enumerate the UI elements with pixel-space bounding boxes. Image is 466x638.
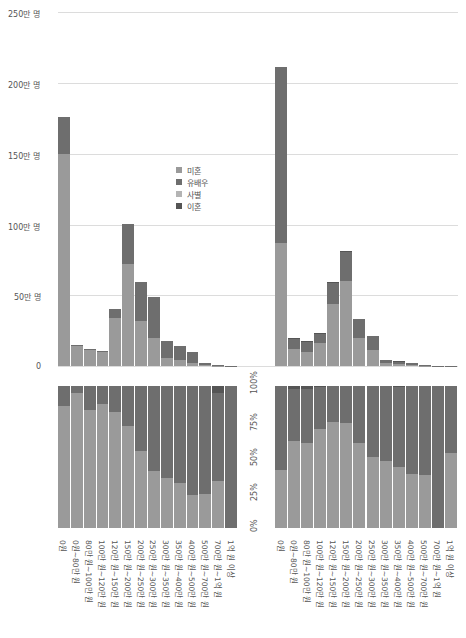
bar-segment	[340, 423, 352, 528]
bar-segment	[109, 386, 121, 412]
bar-segment	[199, 494, 211, 528]
bar	[58, 12, 70, 366]
legend-label: 유배우	[187, 177, 208, 188]
bar-segment	[406, 363, 418, 365]
x-tick-label: 500만 원~700만 원	[419, 540, 430, 608]
bar-segment	[122, 426, 134, 528]
bar-segment	[327, 282, 339, 303]
bar	[109, 12, 121, 366]
bar-segment	[301, 389, 313, 443]
bar-segment	[275, 67, 287, 243]
bar-segment	[419, 386, 431, 475]
bar-segment	[122, 224, 134, 264]
count-chart-right	[275, 12, 458, 366]
pct-tick-75: 75%	[250, 413, 259, 431]
bar	[71, 386, 83, 528]
bar-segment	[174, 360, 186, 366]
bar-segment	[109, 309, 121, 317]
bar	[225, 386, 237, 528]
bar	[135, 12, 147, 366]
x-tick-label: 300만 원~350만 원	[161, 540, 172, 608]
bar	[97, 386, 109, 528]
bar-segment	[199, 365, 211, 366]
x-tick-label: 150만 원~200만 원	[123, 540, 134, 608]
bar-segment	[161, 478, 173, 528]
x-tick-label: 0원	[276, 540, 287, 552]
bar	[135, 386, 147, 528]
pct-tick-0: 0%	[250, 519, 259, 532]
legend-item-widowed: 사별	[176, 188, 208, 200]
percent-chart-left	[58, 386, 238, 528]
bar	[301, 12, 313, 366]
legend: 미혼 유배우 사별 이혼	[176, 164, 208, 212]
bar-segment	[393, 387, 405, 467]
bar-segment	[432, 386, 444, 528]
bar-segment	[71, 346, 83, 366]
bar	[199, 386, 211, 528]
bar-segment	[225, 386, 237, 528]
legend-swatch-icon	[176, 179, 182, 185]
bar-segment	[97, 352, 109, 366]
bar-segment	[109, 412, 121, 528]
bar-segment	[161, 358, 173, 366]
bar-segment	[148, 386, 160, 471]
bar-segment	[419, 365, 431, 366]
bar	[122, 12, 134, 366]
bar-segment	[367, 350, 379, 366]
legend-item-divorced: 이혼	[176, 200, 208, 212]
bar-segment	[97, 386, 109, 404]
x-tick-label: 350만 원~400만 원	[393, 540, 404, 608]
bar	[406, 386, 418, 528]
bar-segment	[393, 467, 405, 528]
x-tick-label: 400만 원~500만 원	[406, 540, 417, 608]
y-tick-150: 150만 명	[8, 150, 40, 161]
bar	[314, 12, 326, 366]
x-tick-label: 700만 원~1억 원	[432, 540, 443, 598]
bar-segment	[393, 361, 405, 364]
bar-segment	[353, 338, 365, 366]
bar-segment	[380, 363, 392, 366]
bar-segment	[340, 251, 352, 281]
bar	[353, 12, 365, 366]
bar-segment	[327, 386, 339, 422]
x-tick-label: 200만 원~250만 원	[354, 540, 365, 608]
bar	[97, 12, 109, 366]
bar-segment	[301, 386, 313, 389]
bar	[301, 386, 313, 528]
bar	[84, 386, 96, 528]
bar-segment	[275, 243, 287, 366]
bar	[367, 386, 379, 528]
bar	[225, 12, 237, 366]
legend-swatch-icon	[176, 167, 182, 173]
bar-segment	[327, 422, 339, 529]
bar-segment	[135, 386, 147, 451]
bar-segment	[275, 386, 287, 470]
y-tick-0: 0	[36, 362, 41, 371]
bar-segment	[58, 154, 70, 366]
bar-segment	[314, 343, 326, 366]
legend-label: 사별	[187, 189, 201, 200]
bar-segment	[340, 281, 352, 366]
bar-segment	[84, 410, 96, 528]
legend-label: 미혼	[187, 165, 201, 176]
bar-segment	[314, 429, 326, 528]
bar	[288, 386, 300, 528]
bar-segment	[353, 319, 365, 337]
bar	[367, 12, 379, 366]
bar-segment	[58, 117, 70, 154]
bar	[393, 12, 405, 366]
bar-segment	[314, 386, 326, 387]
bar-segment	[71, 393, 83, 528]
bar	[380, 12, 392, 366]
bar-segment	[380, 360, 392, 364]
bar	[340, 12, 352, 366]
x-tick-label: 700만 원~1억 원	[213, 540, 224, 598]
bar	[58, 386, 70, 528]
bar-segment	[122, 386, 134, 426]
legend-item-married: 유배우	[176, 176, 208, 188]
bar-segment	[406, 386, 418, 474]
bar-segment	[275, 470, 287, 528]
bar	[161, 386, 173, 528]
bar-segment	[187, 363, 199, 366]
bar-segment	[122, 264, 134, 366]
